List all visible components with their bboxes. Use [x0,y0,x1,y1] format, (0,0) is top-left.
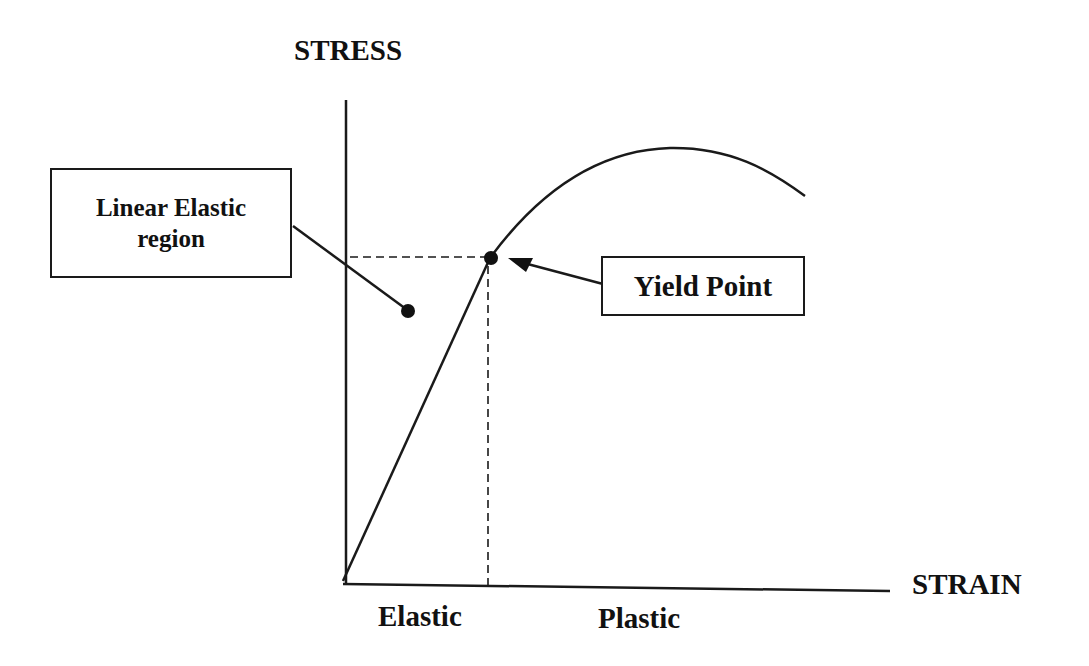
yield-arrow-head-icon [508,258,533,272]
plastic-curve [490,148,805,258]
linear-elastic-dot [401,304,415,318]
yield-arrow-shaft [520,262,603,284]
yield-point-callout: Yield Point [601,256,805,316]
yield-point-dot [484,251,498,265]
plastic-region-label: Plastic [598,604,680,633]
elastic-line [343,258,490,581]
linear-elastic-callout-line2: region [137,223,205,254]
linear-elastic-callout-line1: Linear Elastic [96,192,246,223]
stress-strain-diagram [0,0,1089,666]
linear-elastic-leader [293,226,406,309]
elastic-region-label: Elastic [378,602,462,631]
y-axis-label: STRESS [294,36,402,65]
x-axis-label: STRAIN [912,570,1022,599]
x-axis [343,584,890,591]
linear-elastic-callout: Linear Elastic region [50,168,292,278]
yield-point-callout-label: Yield Point [634,270,772,303]
